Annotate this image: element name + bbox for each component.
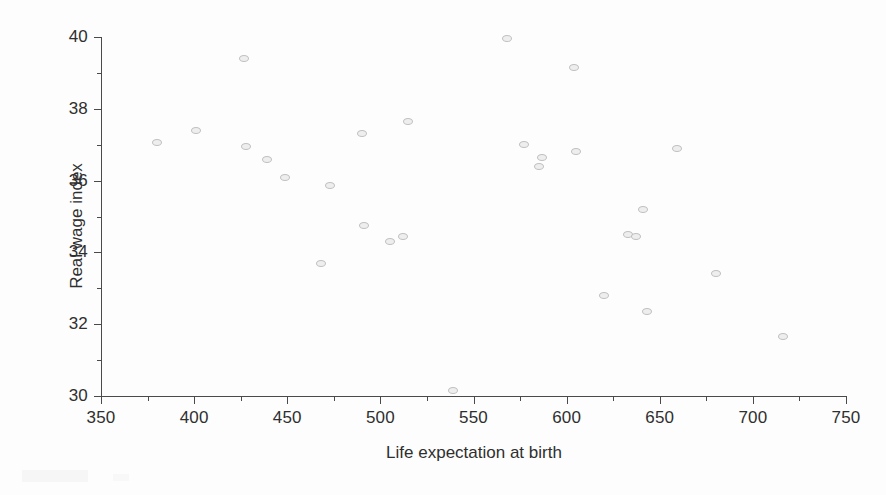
x-tick-label: 350	[87, 408, 116, 428]
x-tick-minor	[334, 397, 335, 401]
x-tick-major	[194, 397, 195, 404]
x-tick-major	[287, 397, 288, 404]
x-tick-major	[753, 397, 754, 404]
x-tick-label: 700	[738, 408, 767, 428]
x-tick-label: 750	[832, 408, 861, 428]
x-tick-major	[660, 397, 661, 404]
data-point	[403, 118, 413, 125]
data-point	[241, 143, 251, 150]
x-tick-label: 550	[459, 408, 488, 428]
y-tick-major	[94, 396, 101, 397]
y-tick-major	[94, 252, 101, 253]
data-point	[316, 260, 326, 267]
data-point	[239, 55, 249, 62]
data-point	[359, 222, 369, 229]
y-tick-label: 40	[69, 27, 88, 47]
x-tick-label: 400	[180, 408, 209, 428]
plot-area	[101, 37, 846, 396]
x-tick-label: 650	[645, 408, 674, 428]
x-tick-major	[474, 397, 475, 404]
data-point	[711, 270, 721, 277]
data-point	[448, 387, 458, 394]
x-tick-major	[101, 397, 102, 404]
data-point	[599, 292, 609, 299]
data-point	[325, 182, 335, 189]
data-point	[398, 233, 408, 240]
y-tick-major	[94, 37, 101, 38]
data-point	[534, 163, 544, 170]
y-tick-major	[94, 324, 101, 325]
data-point	[638, 206, 648, 213]
x-tick-label: 450	[273, 408, 302, 428]
data-point	[672, 145, 682, 152]
data-point	[502, 35, 512, 42]
x-tick-minor	[241, 397, 242, 401]
data-point	[778, 333, 788, 340]
scatter-plot-figure: 350400450500550600650700750303234363840 …	[0, 0, 886, 495]
x-tick-minor	[613, 397, 614, 401]
data-point	[191, 127, 201, 134]
x-tick-minor	[148, 397, 149, 401]
data-point	[519, 141, 529, 148]
data-point	[280, 174, 290, 181]
scan-artifact-secondary	[113, 474, 129, 481]
data-point	[357, 130, 367, 137]
data-point	[642, 308, 652, 315]
x-tick-major	[380, 397, 381, 404]
y-tick-major	[94, 181, 101, 182]
data-point	[631, 233, 641, 240]
data-point	[262, 156, 272, 163]
data-point	[385, 238, 395, 245]
data-point	[571, 148, 581, 155]
x-tick-major	[567, 397, 568, 404]
x-tick-label: 500	[366, 408, 395, 428]
x-tick-minor	[799, 397, 800, 401]
y-tick-major	[94, 109, 101, 110]
x-tick-label: 600	[552, 408, 581, 428]
x-axis-title: Life expectation at birth	[101, 443, 847, 463]
x-tick-major	[846, 397, 847, 404]
x-tick-minor	[520, 397, 521, 401]
data-point	[152, 139, 162, 146]
y-axis-title: Real wage index	[67, 46, 87, 406]
data-point	[537, 154, 547, 161]
data-point	[569, 64, 579, 71]
x-tick-minor	[706, 397, 707, 401]
x-tick-minor	[427, 397, 428, 401]
scan-artifact	[22, 470, 88, 482]
